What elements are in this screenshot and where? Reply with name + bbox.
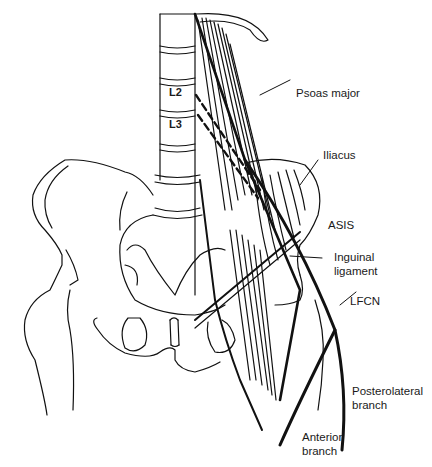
label-iliacus: Iliacus: [323, 148, 356, 162]
label-psoas-major: Psoas major: [296, 86, 360, 100]
sacrum: [120, 215, 225, 315]
label-anterior-branch: Anterior branch: [302, 430, 342, 458]
label-asis: ASIS: [328, 218, 354, 232]
label-l3: L3: [169, 118, 182, 130]
inguinal-ligament-drawing: [195, 232, 300, 320]
lfcn-nerve: [245, 160, 344, 450]
left-ilium: [24, 160, 153, 415]
label-lfcn: LFCN: [350, 294, 380, 308]
spine: [153, 14, 202, 295]
anatomy-figure: L2 L3 Psoas major Iliacus ASIS Inguinal …: [0, 0, 432, 467]
label-posterolateral-branch: Posterolateral branch: [352, 384, 423, 412]
label-inguinal-ligament: Inguinal ligament: [334, 250, 377, 278]
rib: [196, 14, 268, 42]
label-l2: L2: [169, 86, 182, 98]
